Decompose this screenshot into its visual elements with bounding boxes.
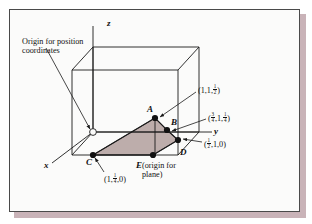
coord-label-B: (34,1,14) [208,112,230,123]
coord-D-close: ,1,0) [211,140,226,149]
shaded-plane-polygon [93,118,178,155]
point-dot-B [164,127,170,133]
point-label-D: D [180,147,187,157]
e-origin-line1: (origin for [142,161,176,170]
leader-coord-B [172,119,206,131]
coord-C-open: (1, [104,175,113,184]
coord-label-C: (1,14,0) [104,173,126,184]
point-label-E-group: E(origin for plane) [136,160,176,179]
open-circle-origin-marker [90,129,97,136]
point-label-A: A [147,104,153,114]
origin-note-line2: coordinates [22,46,83,55]
leader-coord-C [95,158,104,172]
leader-origin-note [46,48,90,129]
point-dot-E [150,152,156,158]
point-dot-A [152,115,158,121]
coord-B-close: ) [227,114,230,123]
coord-label-D: (12,1,0) [204,138,226,149]
coord-B-mid: ,1, [215,114,223,123]
coord-label-A: (1,1,12) [198,84,220,95]
e-origin-line2: plane) [142,170,176,179]
coord-A-open: (1,1, [198,86,213,95]
origin-note: Origin for position coordinates [22,37,83,55]
cube-top-face [72,47,199,70]
unit-cell-diagram-svg [0,0,312,224]
figure-root: Origin for position coordinates z y x A … [0,0,312,224]
origin-note-line1: Origin for position [22,37,83,46]
coord-C-close: ,0) [117,175,126,184]
x-axis-label: x [44,160,49,170]
y-axis-label: y [214,126,218,136]
z-axis-label: z [107,18,111,28]
coord-A-close: ) [217,86,220,95]
point-label-C: C [86,157,92,167]
point-label-B: B [171,117,177,127]
point-dot-D [175,137,181,143]
